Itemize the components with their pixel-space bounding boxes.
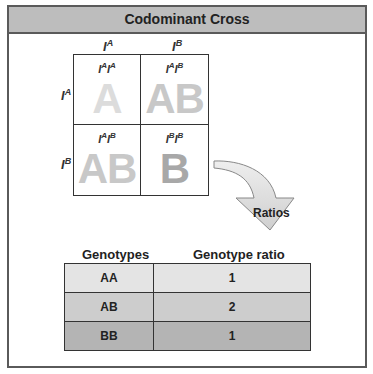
- cell-phenotype: AB: [141, 75, 208, 123]
- header-genotype-ratio: Genotype ratio: [193, 247, 285, 262]
- curved-arrow-icon: [200, 148, 330, 238]
- col-allele-1: IA: [103, 38, 113, 54]
- row-allele-2: IB: [61, 156, 71, 172]
- cell-phenotype: B: [141, 145, 208, 193]
- cell-phenotype: AB: [74, 145, 140, 193]
- cell-phenotype: A: [74, 75, 140, 123]
- punnett-cell-ab-bottom: IAIB AB: [74, 125, 141, 195]
- ratio-table: AA 1 AB 2 BB 1: [64, 263, 311, 351]
- cell-genotype: IAIA: [74, 61, 140, 75]
- table-row: BB 1: [65, 322, 311, 351]
- diagram-title: Codominant Cross: [9, 7, 365, 34]
- row-allele-1: IA: [61, 87, 71, 103]
- ratio-cell: 1: [154, 322, 311, 351]
- genotype-cell: AB: [65, 293, 154, 322]
- header-genotypes: Genotypes: [82, 247, 149, 262]
- punnett-cell-bb: IBIB B: [141, 125, 208, 195]
- punnett-cell-ab-top: IAIB AB: [141, 55, 208, 125]
- arrow-label: Ratios: [253, 206, 290, 220]
- table-row: AA 1: [65, 264, 311, 293]
- ratio-cell: 1: [154, 264, 311, 293]
- ratio-cell: 2: [154, 293, 311, 322]
- table-row: AB 2: [65, 293, 311, 322]
- cell-genotype: IAIB: [141, 61, 208, 75]
- punnett-cell-aa: IAIA A: [74, 55, 141, 125]
- punnett-square: IAIA A IAIB AB IAIB AB IBIB B: [73, 54, 209, 196]
- genotype-cell: AA: [65, 264, 154, 293]
- cell-genotype: IAIB: [74, 131, 140, 145]
- genotype-cell: BB: [65, 322, 154, 351]
- col-allele-2: IB: [172, 38, 182, 54]
- cell-genotype: IBIB: [141, 131, 208, 145]
